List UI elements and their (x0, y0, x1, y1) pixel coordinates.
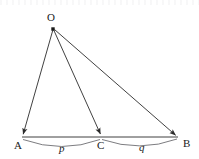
vertex-label-C: C (97, 140, 104, 151)
figure-canvas (0, 0, 199, 159)
arc-label-q: q (139, 142, 145, 153)
ray-O-to-C (54, 30, 101, 135)
vertex-label-A: A (14, 140, 22, 151)
vertex-label-B: B (183, 138, 190, 149)
ray-O-to-A (23, 30, 53, 135)
vertex-marker-O (51, 27, 54, 30)
vertex-label-O: O (47, 12, 55, 23)
ray-O-to-B (55, 30, 176, 136)
arc-label-p: p (59, 143, 65, 154)
geometry-figure: O A C B p q (0, 0, 199, 159)
